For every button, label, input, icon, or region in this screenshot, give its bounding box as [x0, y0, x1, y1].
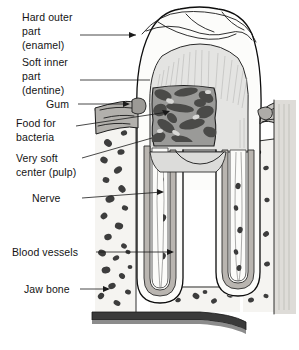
label-nerve: Nerve — [32, 192, 61, 204]
label-food-line1: Food for — [16, 117, 56, 129]
tooth-anatomy-diagram: Hard outer part (enamel) Soft inner part… — [0, 0, 299, 350]
label-enamel-line3: (enamel) — [22, 39, 64, 51]
label-jaw-bone: Jaw bone — [24, 283, 70, 295]
label-pulp-line2: center (pulp) — [16, 166, 76, 178]
pulp-canal-right — [230, 150, 246, 281]
pulp-chamber — [150, 150, 226, 172]
gum-crest-left — [132, 98, 146, 114]
label-dentine-line3: (dentine) — [22, 84, 64, 96]
label-blood-vessels: Blood vessels — [12, 246, 78, 258]
label-pulp-line1: Very soft — [16, 152, 58, 164]
label-enamel-line2: part — [22, 25, 41, 37]
label-gum: Gum — [46, 98, 69, 110]
diagram-canvas: Hard outer part (enamel) Soft inner part… — [0, 0, 299, 350]
label-dentine-line1: Soft inner — [22, 56, 68, 68]
decay-cavity — [149, 86, 219, 147]
label-dentine-line2: part — [22, 70, 41, 82]
right-soft-tissue-strip — [274, 100, 296, 314]
label-food-line2: bacteria — [16, 131, 54, 143]
label-enamel-line1: Hard outer — [22, 11, 73, 23]
